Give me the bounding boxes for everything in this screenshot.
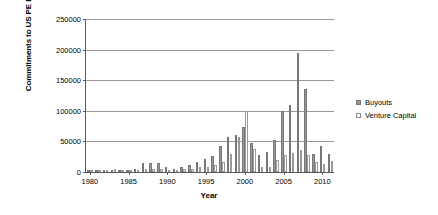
plot-area: 050000100000150000200000250000 198019851… — [85, 19, 334, 173]
bar-group — [125, 19, 131, 172]
legend-swatch-buyouts-icon — [356, 100, 361, 105]
bar-venture-capital — [160, 169, 163, 172]
x-tick-label: 1985 — [120, 177, 137, 186]
x-tick-label: 1995 — [198, 177, 215, 186]
bar-venture-capital — [214, 165, 217, 172]
bar-venture-capital — [106, 170, 109, 172]
x-tick-mark — [129, 172, 130, 175]
pe-commitments-chart: Commitments to US PE Funds ($ Mil) 05000… — [0, 0, 438, 215]
x-tick-mark — [167, 172, 168, 175]
y-tick-label: 50000 — [60, 137, 81, 146]
legend-swatch-venture-capital-icon — [356, 113, 361, 118]
bar-group — [133, 19, 139, 172]
y-tick-label: 250000 — [56, 15, 81, 24]
bar-venture-capital — [292, 153, 295, 172]
x-tick-mark — [206, 172, 207, 175]
x-tick-mark — [90, 172, 91, 175]
bar-venture-capital — [315, 162, 318, 172]
x-axis-title: Year — [85, 191, 333, 200]
bar-group — [149, 19, 155, 172]
bar-venture-capital — [98, 170, 101, 172]
bar-venture-capital — [253, 149, 256, 172]
bar-group — [265, 19, 271, 172]
bar-venture-capital — [121, 170, 124, 172]
bar-venture-capital — [245, 111, 248, 172]
bar-group — [118, 19, 124, 172]
bar-venture-capital — [269, 167, 272, 173]
bar-group — [94, 19, 100, 172]
bar-venture-capital — [323, 164, 326, 172]
x-tick-mark — [322, 172, 323, 175]
bar-venture-capital — [222, 162, 225, 172]
bar-group — [102, 19, 108, 172]
bar-venture-capital — [114, 169, 117, 172]
bar-group — [226, 19, 232, 172]
bar-group — [110, 19, 116, 172]
bar-group — [280, 19, 286, 172]
bar-group — [319, 19, 325, 172]
y-tick-label: 100000 — [56, 106, 81, 115]
bar-group — [87, 19, 93, 172]
bar-venture-capital — [145, 169, 148, 172]
legend-item-venture-capital: Venture Capital — [356, 111, 416, 120]
x-tick-label: 2000 — [237, 177, 254, 186]
bar-group — [180, 19, 186, 172]
bar-group — [296, 19, 302, 172]
bar-venture-capital — [230, 154, 233, 172]
bar-venture-capital — [307, 155, 310, 172]
bar-venture-capital — [183, 169, 186, 172]
bar-group — [257, 19, 263, 172]
bar-venture-capital — [331, 161, 334, 172]
y-tick-label: 200000 — [56, 45, 81, 54]
y-tick-label: 150000 — [56, 76, 81, 85]
bar-group — [211, 19, 217, 172]
bar-group — [156, 19, 162, 172]
bar-venture-capital — [276, 160, 279, 172]
bar-venture-capital — [284, 155, 287, 172]
legend-label-venture-capital: Venture Capital — [365, 111, 416, 120]
bar-group — [273, 19, 279, 172]
bar-group — [242, 19, 248, 172]
bar-series-container — [86, 19, 334, 172]
bar-venture-capital — [300, 150, 303, 172]
bar-group — [234, 19, 240, 172]
y-tick-mark — [83, 172, 86, 173]
chart-legend: Buyouts Venture Capital — [356, 98, 416, 124]
legend-label-buyouts: Buyouts — [365, 98, 392, 107]
legend-item-buyouts: Buyouts — [356, 98, 416, 107]
bar-group — [203, 19, 209, 172]
x-tick-label: 1990 — [159, 177, 176, 186]
bar-group — [218, 19, 224, 172]
x-tick-mark — [284, 172, 285, 175]
bar-venture-capital — [137, 170, 140, 172]
y-axis-title: Commitments to US PE Funds ($ Mil) — [24, 0, 33, 103]
bar-group — [172, 19, 178, 172]
bar-group — [288, 19, 294, 172]
x-tick-label: 1980 — [82, 177, 99, 186]
bar-group — [311, 19, 317, 172]
y-tick-label: 0 — [77, 168, 81, 177]
x-tick-label: 2005 — [275, 177, 292, 186]
bar-group — [304, 19, 310, 172]
bar-group — [187, 19, 193, 172]
bar-group — [195, 19, 201, 172]
x-tick-mark — [245, 172, 246, 175]
bar-group — [249, 19, 255, 172]
x-tick-label: 2010 — [314, 177, 331, 186]
bar-venture-capital — [176, 170, 179, 172]
bar-group — [141, 19, 147, 172]
bar-group — [164, 19, 170, 172]
bar-venture-capital — [191, 169, 194, 172]
bar-venture-capital — [199, 167, 202, 172]
bar-group — [327, 19, 333, 172]
bar-venture-capital — [238, 137, 241, 172]
bar-venture-capital — [261, 167, 264, 173]
bar-venture-capital — [152, 169, 155, 172]
